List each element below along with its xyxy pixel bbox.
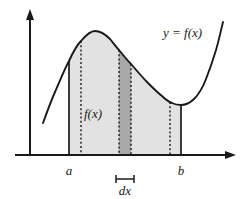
y-axis-arrowhead: [26, 9, 34, 20]
lower-limit-label: a: [66, 163, 73, 178]
area-function-label: f(x): [84, 106, 102, 121]
figure-container: y = f(x) f(x) a b dx: [0, 0, 247, 199]
x-axis-arrowhead: [225, 151, 236, 159]
upper-limit-label: b: [178, 163, 185, 178]
integral-area-diagram: y = f(x) f(x) a b dx: [0, 0, 247, 199]
curve-equation-label: y = f(x): [161, 25, 202, 40]
differential-label: dx: [119, 183, 132, 198]
differential-strip: [119, 50, 131, 155]
